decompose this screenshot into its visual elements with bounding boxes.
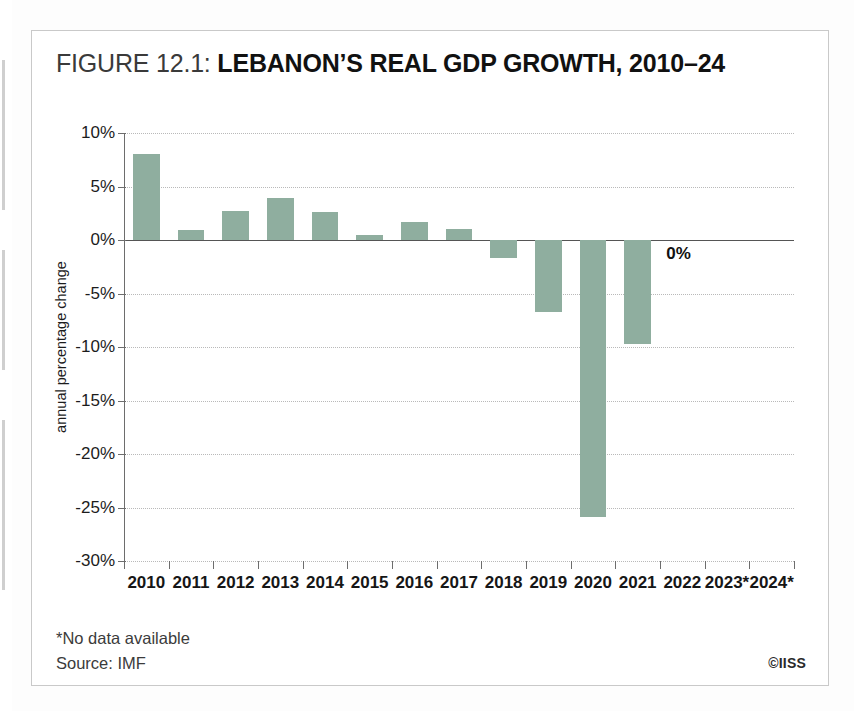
bar <box>490 240 517 258</box>
x-axis-tick <box>481 561 482 569</box>
x-axis-tick <box>213 561 214 569</box>
x-axis-tick-label: 2010 <box>127 573 165 593</box>
x-axis-tick <box>660 561 661 569</box>
x-axis-tick-label: 2023* <box>705 573 749 593</box>
x-axis-tick <box>169 561 170 569</box>
x-axis-tick <box>347 561 348 569</box>
gridline <box>124 454 794 455</box>
bar <box>178 230 205 240</box>
x-axis-tick <box>749 561 750 569</box>
scan-artifact <box>2 250 5 370</box>
bar <box>312 212 339 240</box>
x-axis-tick-label: 2015 <box>351 573 389 593</box>
x-axis-tick <box>526 561 527 569</box>
x-axis-tick <box>124 561 125 569</box>
gridline <box>124 294 794 295</box>
y-axis-tick-label: -5% <box>85 284 115 304</box>
bar <box>624 240 651 344</box>
y-axis-title: annual percentage change <box>50 133 72 561</box>
y-axis-tick-label: 10% <box>81 123 115 143</box>
x-axis-tick <box>705 561 706 569</box>
x-axis-tick-label: 2022 <box>663 573 701 593</box>
figure-frame: FIGURE 12.1: LEBANON’S REAL GDP GROWTH, … <box>31 30 829 686</box>
x-axis-tick <box>303 561 304 569</box>
x-axis-tick <box>392 561 393 569</box>
bar <box>356 235 383 240</box>
x-axis-tick-label: 2024* <box>749 573 793 593</box>
y-axis-line <box>124 133 125 561</box>
gridline <box>124 561 794 562</box>
y-axis-tick-label: -10% <box>75 337 115 357</box>
chart-area: annual percentage change 10%5%0%-5%-10%-… <box>32 31 830 687</box>
gridline <box>124 347 794 348</box>
zero-baseline <box>124 240 794 241</box>
x-axis-tick-label: 2011 <box>173 573 210 593</box>
bar <box>401 222 428 240</box>
bar <box>446 229 473 240</box>
y-axis-tick-label: -15% <box>75 391 115 411</box>
x-axis-tick-label: 2021 <box>619 573 657 593</box>
figure-page: FIGURE 12.1: LEBANON’S REAL GDP GROWTH, … <box>0 0 854 711</box>
x-axis-tick-label: 2012 <box>217 573 255 593</box>
footnote-no-data: *No data available <box>56 629 190 648</box>
y-axis-tick-label: -20% <box>75 444 115 464</box>
x-axis-tick <box>571 561 572 569</box>
x-axis-tick <box>437 561 438 569</box>
x-axis-tick-label: 2020 <box>574 573 612 593</box>
x-axis-tick-label: 2017 <box>440 573 478 593</box>
bar <box>222 211 249 240</box>
y-axis-tick-label: 0% <box>90 230 115 250</box>
x-axis-tick <box>794 561 795 569</box>
value-annotation: 0% <box>666 244 691 264</box>
copyright-credit: ©IISS <box>768 655 806 671</box>
x-axis-tick <box>258 561 259 569</box>
footnote-source: Source: IMF <box>56 654 146 673</box>
scan-artifact <box>2 420 5 590</box>
x-axis-tick-label: 2019 <box>529 573 567 593</box>
x-axis-tick-label: 2016 <box>395 573 433 593</box>
bar <box>580 240 607 517</box>
x-axis-tick-label: 2018 <box>485 573 523 593</box>
scan-artifact <box>2 60 5 210</box>
gridline <box>124 401 794 402</box>
x-axis-tick-label: 2013 <box>261 573 299 593</box>
gridline <box>124 508 794 509</box>
gridline <box>124 187 794 188</box>
y-axis-tick-label: 5% <box>90 177 115 197</box>
x-axis-tick-label: 2014 <box>306 573 344 593</box>
bar <box>535 240 562 312</box>
x-axis-tick <box>615 561 616 569</box>
bar <box>267 198 294 240</box>
bar <box>133 154 160 240</box>
y-axis-tick-label: -25% <box>75 498 115 518</box>
y-axis-tick-label: -30% <box>75 551 115 571</box>
gridline <box>124 133 794 134</box>
